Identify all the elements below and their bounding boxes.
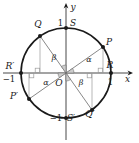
origin-label: O bbox=[55, 78, 63, 88]
label-beta-upper-left: β bbox=[51, 53, 57, 62]
right-angle-marker-P-foot bbox=[98, 68, 103, 73]
angle-wedge-beta-upper-left bbox=[61, 65, 66, 73]
right-angle-marker-P-prime-foot bbox=[29, 73, 34, 78]
label-R: R bbox=[106, 60, 114, 70]
label-Q: Q bbox=[34, 19, 42, 29]
unit-circle-figure: y x O 1 1 −1 −1 P Q R S P′ Q′ R′ S′ α β … bbox=[0, 0, 139, 143]
label-alpha-upper-right: α bbox=[86, 55, 92, 64]
right-angle-marker-Q-foot bbox=[35, 68, 40, 73]
label-S: S bbox=[70, 18, 76, 28]
point-S-dot bbox=[64, 26, 68, 30]
right-angle-marker-Q-prime-foot bbox=[87, 73, 92, 78]
angle-wedge-alpha-lower-left bbox=[58, 73, 66, 78]
label-S-prime: S′ bbox=[67, 113, 75, 123]
label-P-prime: P′ bbox=[9, 91, 18, 101]
label-Q-prime: Q′ bbox=[85, 109, 94, 119]
tick-label-neg-one-left: −1 bbox=[3, 74, 16, 84]
label-R-prime: R′ bbox=[5, 61, 15, 71]
tick-label-one-top: 1 bbox=[58, 18, 63, 28]
point-R-dot bbox=[109, 71, 113, 75]
point-R-prime-dot bbox=[19, 71, 23, 75]
tick-label-one-right: 1 bbox=[108, 77, 113, 87]
angle-wedge-beta-lower-right bbox=[66, 73, 71, 81]
y-axis-label: y bbox=[70, 2, 77, 12]
point-P-prime-dot bbox=[27, 97, 31, 101]
x-axis-label: x bbox=[125, 74, 130, 84]
label-alpha-lower-left: α bbox=[43, 78, 49, 87]
point-P-dot bbox=[101, 45, 105, 49]
unit-circle-svg: y x O 1 1 −1 −1 P Q R S P′ Q′ R′ S′ α β … bbox=[0, 0, 139, 143]
angle-wedge-alpha-upper-right bbox=[66, 68, 74, 73]
point-Q-dot bbox=[38, 34, 42, 38]
tick-label-neg-one-bottom: −1 bbox=[50, 113, 63, 123]
label-beta-lower-right: β bbox=[78, 78, 84, 87]
label-P: P bbox=[105, 37, 113, 47]
